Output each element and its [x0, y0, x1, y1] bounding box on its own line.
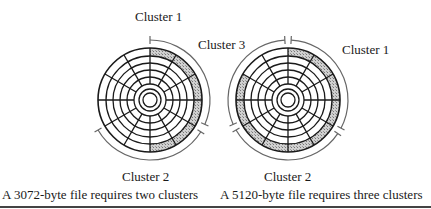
right-disk-icon	[236, 48, 340, 152]
left-disk-icon	[98, 48, 202, 152]
disk-diagrams	[0, 0, 431, 209]
